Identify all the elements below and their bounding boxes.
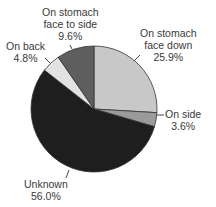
label-on-side: On side 3.6% — [165, 108, 201, 132]
label-pct: 56.0% — [24, 190, 68, 202]
label-text: On side — [165, 108, 201, 120]
label-text: On stomach — [140, 27, 197, 39]
label-face-to-side: On stomach face to side 9.6% — [42, 6, 99, 42]
label-face-down: On stomach face down 25.9% — [140, 27, 197, 63]
label-on-back: On back 4.8% — [6, 40, 45, 64]
label-pct: 4.8% — [6, 52, 45, 64]
label-pct: 25.9% — [140, 51, 197, 63]
label-text: face to side — [42, 18, 99, 30]
label-pct: 9.6% — [42, 30, 99, 42]
label-unknown: Unknown 56.0% — [24, 178, 68, 202]
label-text: On stomach — [42, 6, 99, 18]
pie-slices — [31, 46, 157, 172]
label-pct: 3.6% — [165, 120, 201, 132]
label-text: Unknown — [24, 178, 68, 190]
label-text: face down — [140, 39, 197, 51]
label-text: On back — [6, 40, 45, 52]
